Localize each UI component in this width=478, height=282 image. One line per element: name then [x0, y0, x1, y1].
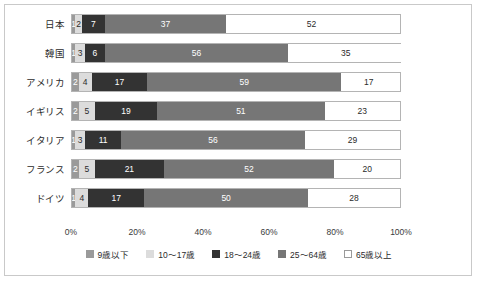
x-axis-tick-label: 100%: [390, 227, 412, 237]
bar-segment: 51: [157, 102, 324, 120]
legend-label: 65歳以上: [356, 248, 392, 260]
stacked-bar: 1273752: [71, 14, 401, 34]
stacked-bar: 25215220: [71, 159, 401, 179]
bar-segment: 5: [79, 102, 95, 120]
bar-segment: 4: [79, 73, 92, 91]
stacked-bar: 1365635: [71, 43, 401, 63]
legend-label: 10～17歳: [158, 248, 195, 260]
legend-item[interactable]: 25～64歳: [278, 248, 327, 260]
bar-segment: 5: [79, 160, 95, 178]
bar-segment: 52: [164, 160, 335, 178]
legend-swatch-icon: [146, 250, 154, 258]
row-category-label: 韓国: [5, 46, 71, 60]
legend-item[interactable]: 18～24歳: [212, 248, 261, 260]
chart-row: 日本1273752: [5, 13, 473, 35]
bar-segment: 56: [105, 44, 289, 62]
legend-label: 18～24歳: [224, 248, 261, 260]
bar-segment: 6: [85, 44, 105, 62]
bar-segment: 37: [105, 15, 226, 33]
x-axis-tick-label: 60%: [260, 227, 277, 237]
legend-item[interactable]: 65歳以上: [344, 248, 392, 260]
bar-segment: 19: [95, 102, 157, 120]
row-category-label: イタリア: [5, 133, 71, 147]
bar-segment: 3: [75, 44, 85, 62]
row-category-label: 日本: [5, 17, 71, 31]
x-axis-tick-label: 20%: [128, 227, 145, 237]
row-category-label: フランス: [5, 162, 71, 176]
bar-segment: 4: [75, 189, 88, 207]
bar-segment: 59: [147, 73, 341, 91]
x-axis: 0%20%40%60%80%100%: [5, 227, 473, 243]
bar-segment: 28: [308, 189, 400, 207]
bar-segment: 17: [88, 189, 144, 207]
bar-segment: 56: [121, 131, 305, 149]
stacked-bar: 24175917: [71, 72, 401, 92]
bar-segment: 11: [85, 131, 121, 149]
bar-segment: 52: [226, 15, 397, 33]
chart-row: 韓国1365635: [5, 42, 473, 64]
x-axis-ticks: 0%20%40%60%80%100%: [71, 227, 401, 243]
stacked-bar: 25195123: [71, 101, 401, 121]
bar-segment: 23: [325, 102, 400, 120]
chart-row: アメリカ24175917: [5, 71, 473, 93]
bar-segment: 29: [305, 131, 400, 149]
bar-segment: 17: [341, 73, 397, 91]
x-axis-tick-label: 40%: [194, 227, 211, 237]
legend-swatch-icon: [278, 250, 286, 258]
legend-item[interactable]: 10～17歳: [146, 248, 195, 260]
legend-swatch-icon: [344, 250, 352, 258]
bar-segment: 21: [95, 160, 164, 178]
chart-row: イタリア13115629: [5, 129, 473, 151]
bar-segment: 3: [75, 131, 85, 149]
stacked-bar: 14175028: [71, 188, 401, 208]
bar-segment: 35: [288, 44, 403, 62]
chart-row: フランス25215220: [5, 158, 473, 180]
x-axis-tick-label: 80%: [326, 227, 343, 237]
chart-row: イギリス25195123: [5, 100, 473, 122]
legend-label: 25～64歳: [290, 248, 327, 260]
bar-segment: 50: [144, 189, 308, 207]
legend-swatch-icon: [212, 250, 220, 258]
chart-row: ドイツ14175028: [5, 187, 473, 209]
legend-label: 9歳以下: [98, 248, 130, 260]
chart-legend: 9歳以下10～17歳18～24歳25～64歳65歳以上: [5, 248, 473, 260]
chart-container: 日本1273752韓国1365635アメリカ24175917イギリス251951…: [4, 4, 472, 276]
bar-segment: 20: [334, 160, 400, 178]
row-category-label: アメリカ: [5, 75, 71, 89]
bar-segment: 17: [92, 73, 148, 91]
row-category-label: ドイツ: [5, 191, 71, 205]
row-category-label: イギリス: [5, 104, 71, 118]
plot-area: 日本1273752韓国1365635アメリカ24175917イギリス251951…: [5, 13, 473, 225]
legend-swatch-icon: [86, 250, 94, 258]
legend-item[interactable]: 9歳以下: [86, 248, 130, 260]
bar-segment: 7: [82, 15, 105, 33]
x-axis-tick-label: 0%: [65, 227, 77, 237]
stacked-bar: 13115629: [71, 130, 401, 150]
